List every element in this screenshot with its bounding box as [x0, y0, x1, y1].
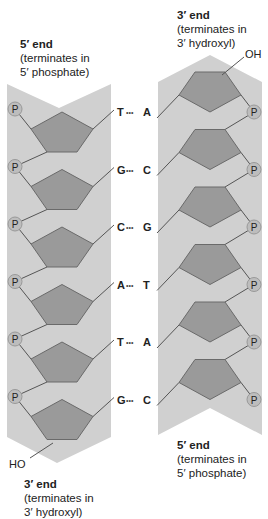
base-right: G — [143, 221, 152, 233]
label-title: 3′ end — [24, 477, 94, 491]
base-left: C — [117, 221, 125, 233]
base-left: A — [117, 279, 125, 291]
phosphate-label: P — [12, 392, 19, 403]
base-right: C — [143, 394, 151, 406]
base-pair: G•••C — [117, 394, 151, 406]
phosphate-label: P — [251, 165, 258, 176]
label-line: 5′ phosphate) — [20, 65, 90, 79]
hydrogen-bond-dots: ••• — [126, 339, 134, 346]
label-bottom-left-3-end: 3′ end (terminates in 3′ hydroxyl) — [24, 477, 94, 519]
phosphate-label: P — [251, 280, 258, 291]
base-pairs: T•••AG•••CC•••GA•••TT•••AG•••C — [117, 106, 152, 406]
base-right: C — [143, 164, 151, 176]
hydrogen-bond-dots: ••• — [126, 224, 134, 231]
phosphate-label: P — [251, 222, 258, 233]
label-top-left-5-end: 5′ end (terminates in 5′ phosphate) — [20, 37, 90, 79]
hydrogen-bond-dots: ••• — [126, 397, 134, 404]
phosphate-label: P — [12, 104, 19, 115]
base-pair: A•••T — [117, 279, 150, 291]
label-line: (terminates in — [24, 491, 94, 505]
base-left: T — [117, 336, 124, 348]
label-line: (terminates in — [20, 51, 90, 65]
label-title: 5′ end — [177, 438, 247, 452]
hydrogen-bond-dots: ••• — [126, 109, 134, 116]
label-line: 3′ hydroxyl) — [24, 505, 94, 519]
label-top-right-3-end: 3′ end (terminates in 3′ hydroxyl) — [177, 8, 247, 50]
base-right: A — [143, 336, 151, 348]
phosphate-label: P — [12, 334, 19, 345]
hydrogen-bond-dots: ••• — [126, 282, 134, 289]
label-line: 3′ hydroxyl) — [177, 36, 247, 50]
phosphate-label: P — [12, 219, 19, 230]
label-line: (terminates in — [177, 22, 247, 36]
base-pair: C•••G — [117, 221, 152, 233]
phosphate-label: P — [251, 107, 258, 118]
base-right: A — [143, 106, 151, 118]
base-pair: T•••A — [117, 106, 151, 118]
label-title: 5′ end — [20, 37, 90, 51]
base-pair: G•••C — [117, 164, 151, 176]
label-line: 5′ phosphate) — [177, 466, 247, 480]
ho-label: HO — [9, 458, 26, 470]
phosphate-label: P — [12, 162, 19, 173]
base-left: G — [117, 164, 126, 176]
phosphate-label: P — [251, 395, 258, 406]
label-title: 3′ end — [177, 8, 247, 22]
base-pair: T•••A — [117, 336, 151, 348]
base-left: T — [117, 106, 124, 118]
base-right: T — [143, 279, 150, 291]
label-line: (terminates in — [177, 452, 247, 466]
base-left: G — [117, 394, 126, 406]
phosphate-label: P — [12, 277, 19, 288]
oh-label: OH — [245, 48, 262, 60]
label-bottom-right-5-end: 5′ end (terminates in 5′ phosphate) — [177, 438, 247, 480]
phosphate-label: P — [251, 337, 258, 348]
hydrogen-bond-dots: ••• — [126, 167, 134, 174]
